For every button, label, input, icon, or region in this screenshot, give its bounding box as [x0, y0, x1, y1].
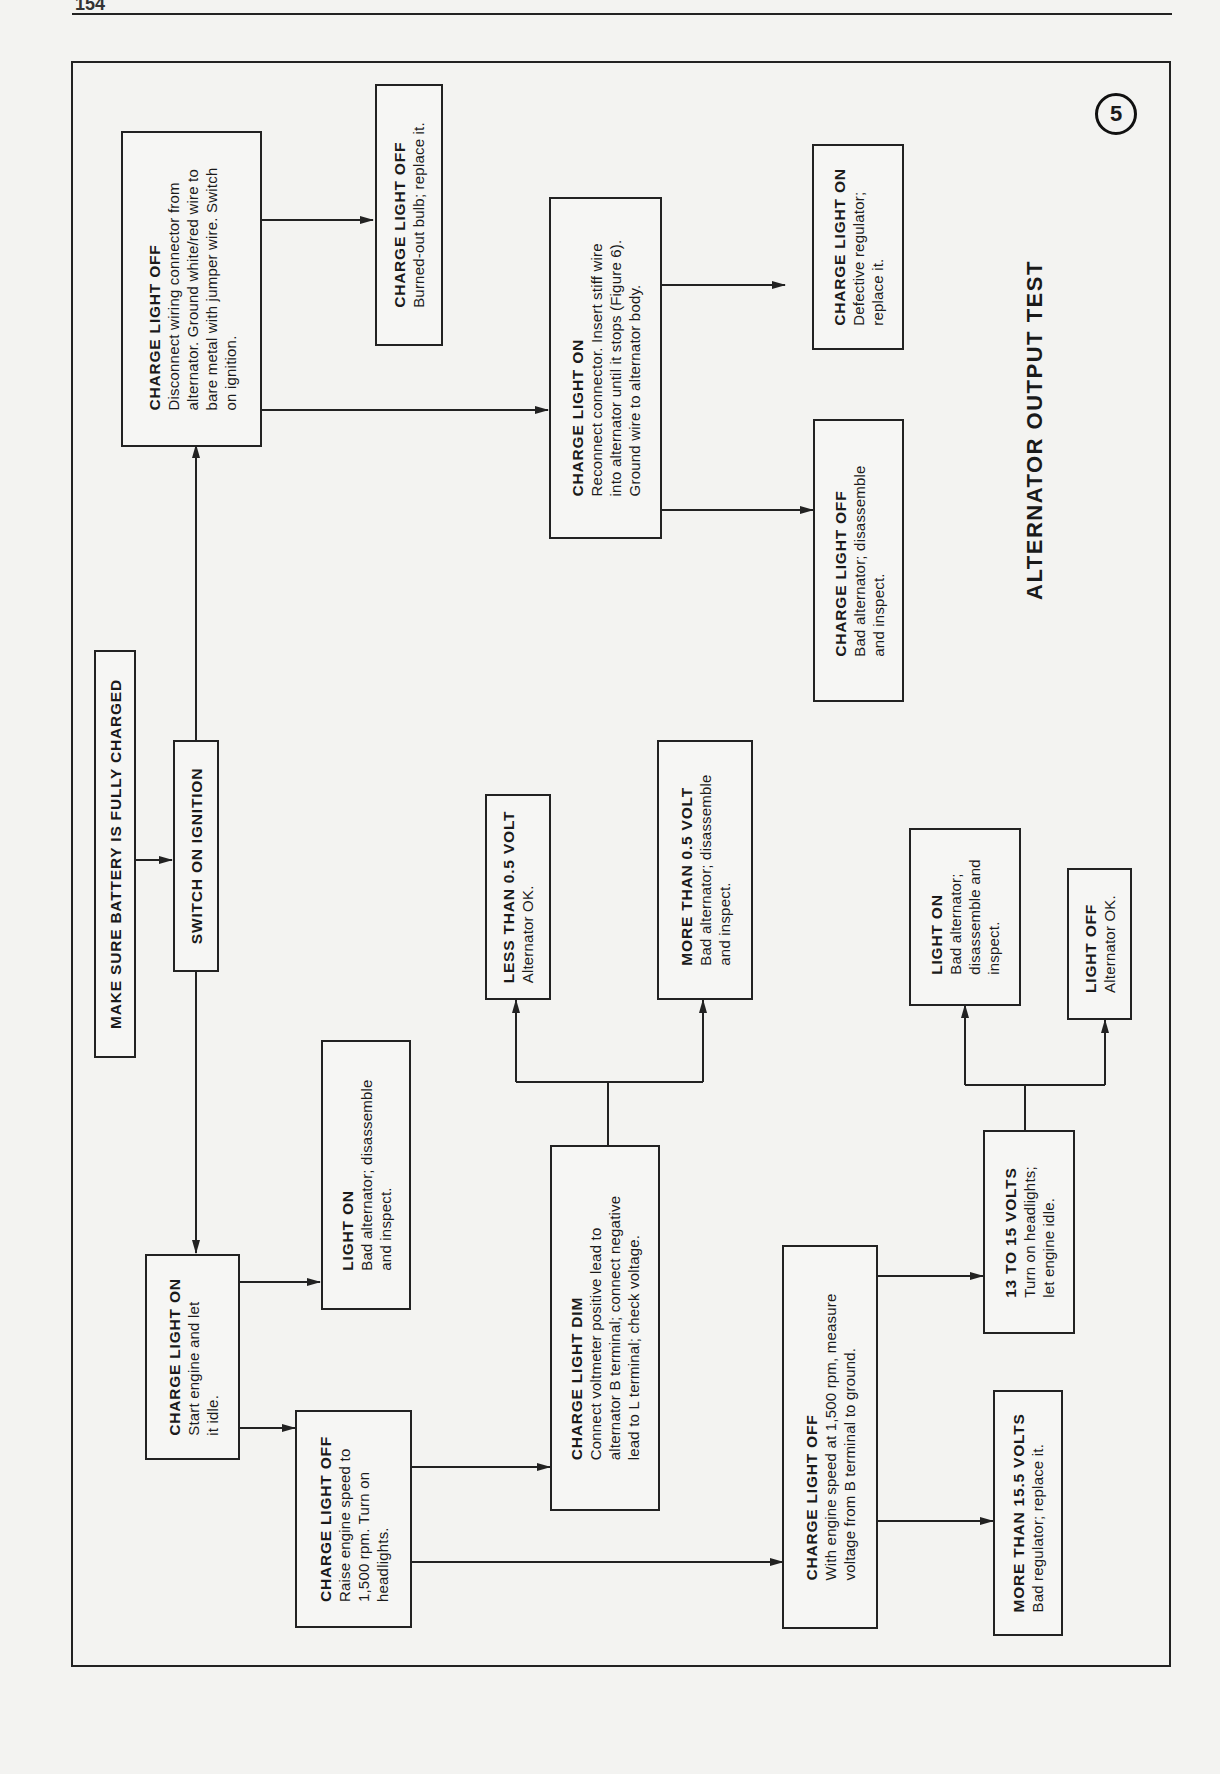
node-bad-alternator-top: CHARGE LIGHT OFF Bad alternator; disasse…	[813, 419, 904, 702]
node-text: Alternator OK.	[518, 811, 537, 984]
node-light-on-bad-alternator: LIGHT ON Bad alternator; disassemble and…	[321, 1040, 411, 1310]
node-text: inspect.	[984, 859, 1003, 975]
node-charge-light-on-start: CHARGE LIGHT ON Start engine and let it …	[145, 1254, 240, 1460]
node-text: Bad alternator;	[946, 859, 965, 975]
node-heading: CHARGE LIGHT OFF	[390, 122, 409, 308]
node-heading: CHARGE LIGHT ON	[164, 1278, 183, 1436]
node-text: bare metal with jumper wire. Switch	[201, 168, 220, 411]
node-heading: SWITCH ON IGNITION	[188, 768, 205, 944]
node-text: Turn on headlights;	[1020, 1166, 1039, 1298]
node-text: replace it.	[868, 168, 887, 326]
node-text: voltage from B terminal to ground.	[840, 1293, 859, 1580]
node-heading: CHARGE LIGHT DIM	[567, 1196, 586, 1461]
node-defective-regulator: CHARGE LIGHT ON Defective regulator; rep…	[812, 144, 904, 350]
node-heading: LESS THAN 0.5 VOLT	[499, 811, 518, 984]
node-heading: CHARGE LIGHT ON	[830, 168, 849, 326]
node-text: Bad regulator; replace it.	[1028, 1413, 1047, 1612]
node-switch-on-ignition: SWITCH ON IGNITION	[173, 740, 219, 972]
node-burned-out-bulb: CHARGE LIGHT OFF Burned-out bulb; replac…	[375, 84, 443, 346]
node-text: Ground wire to alternator body.	[625, 240, 644, 497]
node-text: Defective regulator;	[849, 168, 868, 326]
node-heading: 13 TO 15 VOLTS	[1001, 1166, 1020, 1298]
node-text: Bad alternator; disassemble	[357, 1079, 376, 1270]
node-text: into alternator until it stops (Figure 6…	[606, 240, 625, 497]
node-heading: CHARGE LIGHT OFF	[144, 168, 163, 411]
node-text: it idle.	[202, 1278, 221, 1436]
node-light-on-bad-alternator-right: LIGHT ON Bad alternator; disassemble and…	[909, 828, 1021, 1006]
node-text: and inspect.	[868, 465, 887, 656]
node-charge-light-off-raise: CHARGE LIGHT OFF Raise engine speed to 1…	[295, 1410, 412, 1628]
node-text: Alternator OK.	[1100, 895, 1119, 993]
node-text: With engine speed at 1,500 rpm, measure	[821, 1293, 840, 1580]
node-more-than-05-volt: MORE THAN 0.5 VOLT Bad alternator; disas…	[657, 740, 753, 1000]
node-heading: CHARGE LIGHT OFF	[316, 1436, 335, 1602]
figure-number-badge: 5	[1095, 93, 1137, 135]
node-text: 1,500 rpm. Turn on	[354, 1436, 373, 1602]
node-heading: CHARGE LIGHT ON	[568, 240, 587, 497]
node-text: Burned-out bulb; replace it.	[409, 122, 428, 308]
node-heading: MORE THAN 0.5 VOLT	[677, 774, 696, 965]
node-more-than-155-volts: MORE THAN 15.5 VOLTS Bad regulator; repl…	[993, 1390, 1063, 1636]
node-heading: MORE THAN 15.5 VOLTS	[1009, 1413, 1028, 1612]
node-charge-light-off-measure: CHARGE LIGHT OFF With engine speed at 1,…	[782, 1245, 878, 1629]
node-text: Connect voltmeter positive lead to	[586, 1196, 605, 1461]
node-text: let engine idle.	[1039, 1166, 1058, 1298]
node-text: Bad alternator; disassemble	[849, 465, 868, 656]
node-charge-light-on-reconnect: CHARGE LIGHT ON Reconnect connector. Ins…	[549, 197, 662, 539]
node-text: and inspect.	[715, 774, 734, 965]
node-light-off-alternator-ok: LIGHT OFF Alternator OK.	[1067, 868, 1132, 1020]
node-heading: LIGHT OFF	[1081, 895, 1100, 993]
node-text: alternator B terminal; connect negative	[605, 1196, 624, 1461]
node-text: Reconnect connector. Insert stiff wire	[587, 240, 606, 497]
node-charge-light-dim: CHARGE LIGHT DIM Connect voltmeter posit…	[550, 1145, 660, 1511]
node-text: Bad alternator; disassemble	[696, 774, 715, 965]
node-charge-light-off-disconnect: CHARGE LIGHT OFF Disconnect wiring conne…	[121, 131, 262, 447]
node-text: headlights.	[373, 1436, 392, 1602]
node-heading: CHARGE LIGHT OFF	[802, 1293, 821, 1580]
node-text: Start engine and let	[183, 1278, 202, 1436]
node-text: Raise engine speed to	[335, 1436, 354, 1602]
node-less-than-05-volt: LESS THAN 0.5 VOLT Alternator OK.	[485, 794, 551, 1000]
node-battery-check: MAKE SURE BATTERY IS FULLY CHARGED	[94, 650, 136, 1058]
node-heading: LIGHT ON	[338, 1079, 357, 1270]
node-text: disassemble and	[965, 859, 984, 975]
node-heading: CHARGE LIGHT OFF	[830, 465, 849, 656]
node-heading: MAKE SURE BATTERY IS FULLY CHARGED	[107, 679, 124, 1029]
node-text: and inspect.	[376, 1079, 395, 1270]
node-heading: LIGHT ON	[927, 859, 946, 975]
node-text: Disconnect wiring connector from	[163, 168, 182, 411]
node-text: alternator. Ground white/red wire to	[182, 168, 201, 411]
figure-title: ALTERNATOR OUTPUT TEST	[1022, 260, 1048, 600]
node-13-to-15-volts: 13 TO 15 VOLTS Turn on headlights; let e…	[983, 1130, 1075, 1334]
node-text: on ignition.	[220, 168, 239, 411]
node-text: lead to L terminal; check voltage.	[624, 1196, 643, 1461]
